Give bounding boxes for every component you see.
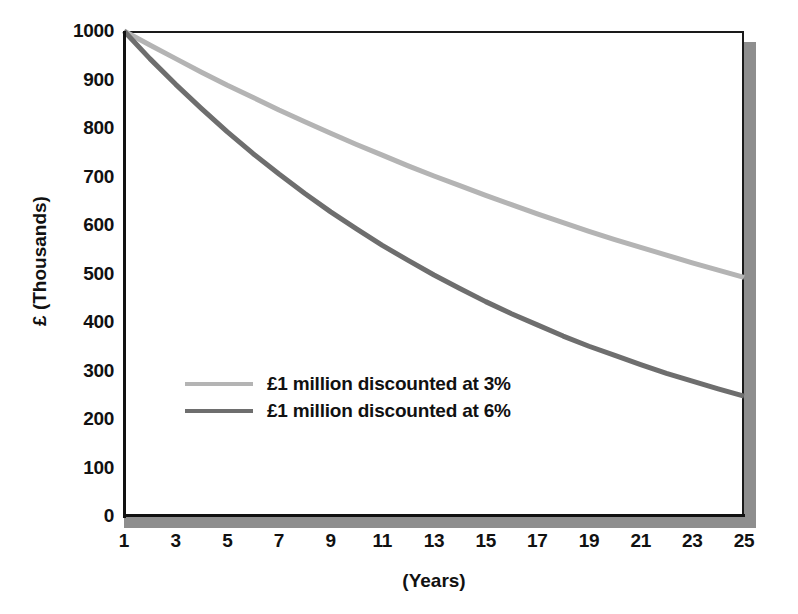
series-line-3pct	[124, 31, 744, 277]
x-tick-label: 19	[569, 531, 609, 550]
x-tick-label: 7	[259, 531, 299, 550]
y-axis-line	[123, 31, 126, 518]
y-tick-label: 900	[42, 70, 114, 89]
x-tick-label: 5	[207, 531, 247, 550]
x-axis-title: (Years)	[124, 570, 744, 592]
y-tick-label: 700	[42, 167, 114, 186]
x-tick-label: 9	[311, 531, 351, 550]
y-axis-title: £ (Thousands)	[29, 161, 51, 361]
plot-frame-shadow-right	[744, 42, 756, 528]
plot-lines	[124, 31, 744, 516]
x-tick-label: 11	[362, 531, 402, 550]
y-tick-label: 1000	[42, 21, 114, 40]
chart-legend: £1 million discounted at 3% £1 million d…	[185, 370, 511, 424]
y-tick-label: 500	[42, 264, 114, 283]
x-tick-label: 23	[672, 531, 712, 550]
y-tick-label: 400	[42, 312, 114, 331]
x-tick-label: 15	[466, 531, 506, 550]
y-tick-label: 300	[42, 361, 114, 380]
x-tick-label: 17	[517, 531, 557, 550]
x-tick-label: 21	[621, 531, 661, 550]
x-tick-label: 1	[104, 531, 144, 550]
y-tick-label: 800	[42, 118, 114, 137]
legend-item-6pct: £1 million discounted at 6%	[185, 397, 511, 424]
x-tick-label: 25	[724, 531, 764, 550]
x-axis-line	[123, 514, 745, 517]
x-tick-label: 3	[156, 531, 196, 550]
legend-swatch-3pct	[185, 382, 253, 386]
x-tick-label: 13	[414, 531, 454, 550]
plot-frame-shadow-bottom	[124, 516, 756, 528]
y-tick-label: 100	[42, 458, 114, 477]
series-line-6pct	[124, 31, 744, 396]
legend-label-6pct: £1 million discounted at 6%	[267, 400, 511, 422]
legend-swatch-6pct	[185, 409, 253, 413]
y-tick-label: 200	[42, 409, 114, 428]
legend-label-3pct: £1 million discounted at 3%	[267, 373, 511, 395]
legend-item-3pct: £1 million discounted at 3%	[185, 370, 511, 397]
y-tick-label: 600	[42, 215, 114, 234]
discount-chart: 10009008007006005004003002001000 1357911…	[0, 0, 798, 614]
y-tick-label: 0	[42, 506, 114, 525]
